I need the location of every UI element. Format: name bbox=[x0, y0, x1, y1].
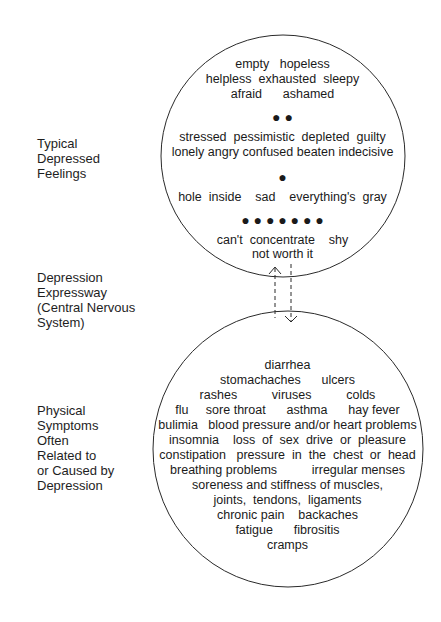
bullet-dots: ● bbox=[62, 170, 441, 184]
label-line: Depression bbox=[37, 270, 135, 285]
symptom-line: bulimia blood pressure and/or heart prob… bbox=[67, 418, 441, 433]
symptom-line: rashes viruses colds bbox=[67, 388, 441, 403]
feeling-line: can't concentrate shy bbox=[62, 233, 441, 248]
feeling-line: helpless exhausted sleepy bbox=[62, 72, 441, 87]
symptom-line: breathing problems irregular menses bbox=[67, 463, 441, 478]
label-line: Expressway bbox=[37, 285, 135, 300]
label-depression-expressway: Depression Expressway (Central Nervous S… bbox=[37, 270, 135, 330]
feeling-line: hole inside sad everything's gray bbox=[62, 190, 441, 205]
feeling-line: not worth it bbox=[62, 247, 441, 262]
symptom-line: constipation pressure in the chest or he… bbox=[67, 448, 441, 463]
symptom-line: soreness and stiffness of muscles, bbox=[67, 478, 441, 493]
feeling-line: afraid ashamed bbox=[62, 87, 441, 102]
symptom-line: flu sore throat asthma hay fever bbox=[67, 403, 441, 418]
label-line: System) bbox=[37, 315, 135, 330]
feeling-line: lonely angry confused beaten indecisive bbox=[62, 145, 441, 160]
bullet-dots: ● ● bbox=[62, 110, 441, 124]
symptom-line: cramps bbox=[67, 538, 441, 553]
symptom-line: insomnia loss of sex drive or pleasure bbox=[67, 433, 441, 448]
symptom-line: fatigue fibrositis bbox=[67, 523, 441, 538]
feeling-line: empty hopeless bbox=[62, 57, 441, 72]
label-line: (Central Nervous bbox=[37, 300, 135, 315]
feeling-line: stressed pessimistic depleted guilty bbox=[62, 130, 441, 145]
symptom-line: chronic pain backaches bbox=[67, 508, 441, 523]
symptom-line: diarrhea bbox=[67, 358, 441, 373]
symptom-line: stomachaches ulcers bbox=[67, 373, 441, 388]
symptom-line: joints, tendons, ligaments bbox=[67, 493, 441, 508]
expressway-connector bbox=[269, 264, 297, 322]
bullet-dots: ● ● ● ● ● ● ● bbox=[62, 213, 441, 227]
